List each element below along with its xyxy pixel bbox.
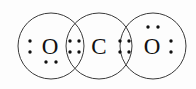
lewis-structure-svg: OCO xyxy=(0,0,196,89)
bonding-pairs-left-overlap xyxy=(68,39,80,53)
valence-electron-dot xyxy=(77,50,80,53)
valence-electron-dot xyxy=(118,50,121,53)
valence-electron-dot xyxy=(68,39,71,42)
valence-electron-dot xyxy=(169,50,172,53)
valence-electron-dot xyxy=(118,39,121,42)
atom-left-oxygen: O xyxy=(42,34,59,59)
valence-electron-dot xyxy=(127,39,130,42)
lone-pair-left-oxygen-bottom xyxy=(44,60,57,63)
lone-pair-left-oxygen-left xyxy=(28,39,31,53)
valence-electron-dot xyxy=(77,39,80,42)
atom-symbol-layer: OCO xyxy=(42,34,161,59)
valence-electron-dot xyxy=(169,39,172,42)
valence-electron-dot xyxy=(127,50,130,53)
valence-electron-dot xyxy=(44,60,47,63)
valence-electron-dot xyxy=(28,39,31,42)
lone-pair-right-oxygen-top xyxy=(146,25,159,28)
atom-right-oxygen: O xyxy=(144,34,161,59)
valence-electron-dot xyxy=(146,25,149,28)
valence-electron-dot xyxy=(156,25,159,28)
valence-electron-dot xyxy=(68,50,71,53)
valence-electron-dot xyxy=(54,60,57,63)
lewis-structure-diagram: OCO xyxy=(0,0,196,89)
atom-center-carbon: C xyxy=(91,34,106,59)
lone-pair-right-oxygen-right xyxy=(169,39,172,53)
valence-electron-dot xyxy=(28,50,31,53)
